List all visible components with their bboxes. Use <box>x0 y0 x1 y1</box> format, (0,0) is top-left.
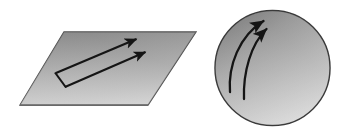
parallel-transport-figure <box>0 0 345 137</box>
figure-container: Parallel transport of vectors on a flat … <box>0 0 345 137</box>
flat-plane-panel <box>20 32 196 105</box>
curved-sphere-panel <box>215 11 330 126</box>
